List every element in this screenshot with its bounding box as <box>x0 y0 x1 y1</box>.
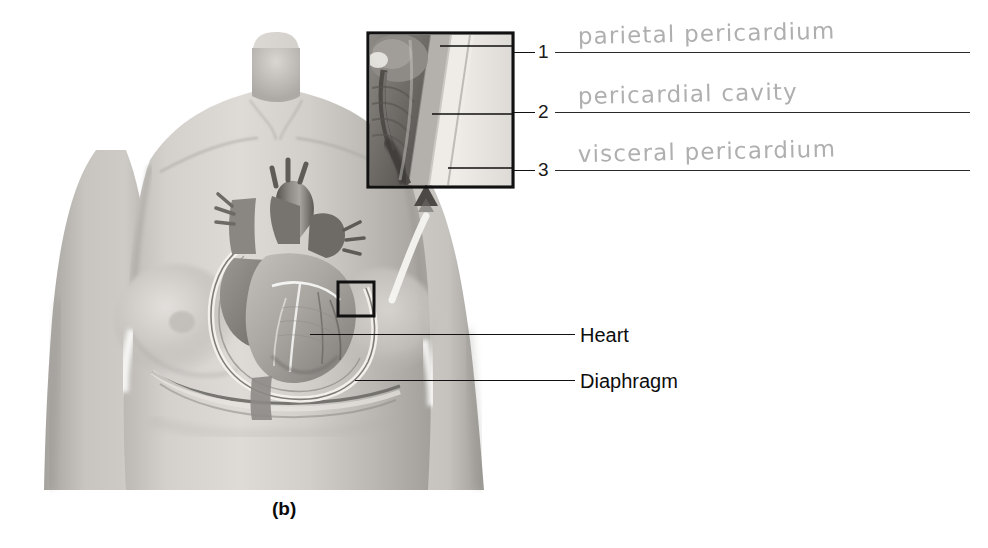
heart-label: Heart <box>580 325 629 345</box>
leader-dash-3 <box>513 170 535 171</box>
anatomy-figure-stage: 1 parietal pericardium 2 pericardial cav… <box>0 0 988 548</box>
heart-leader-line <box>310 334 575 335</box>
figure-page: 1 parietal pericardium 2 pericardial cav… <box>0 0 988 548</box>
handwritten-answer-2[interactable]: pericardial cavity <box>577 78 798 109</box>
diaphragm-label: Diaphragm <box>580 371 678 391</box>
row-number-1: 1 <box>538 42 549 61</box>
pericardium-magnified-inset <box>368 33 513 187</box>
answer-rule-1 <box>555 52 970 53</box>
diaphragm-leader-line <box>355 380 575 381</box>
answer-rule-2 <box>555 112 970 113</box>
row-number-3: 3 <box>538 160 549 179</box>
row-number-2: 2 <box>538 102 549 121</box>
handwritten-answer-1[interactable]: parietal pericardium <box>577 18 835 49</box>
leader-dash-2 <box>513 112 535 113</box>
anatomy-illustration <box>0 0 988 548</box>
figure-caption: (b) <box>272 498 296 520</box>
answer-rule-3 <box>555 170 970 171</box>
handwritten-answer-3[interactable]: visceral pericardium <box>577 136 836 167</box>
leader-dash-1 <box>513 52 535 53</box>
